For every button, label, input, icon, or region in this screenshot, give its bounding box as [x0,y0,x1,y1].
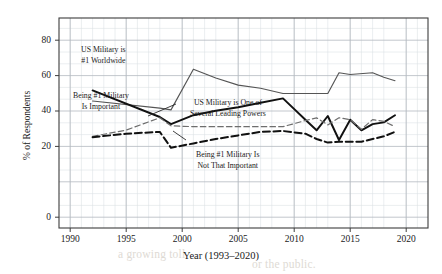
chart-figure: in anticipation on the part of an and th… [0,0,442,274]
annotation-line-1: US Military is [81,45,126,56]
annotation-one-of-several-leading-powers: US Military is One of Several Leading Po… [190,98,266,119]
annotation-line-1: US Military is One of [190,98,266,109]
y-tick-label-40: 40 [33,105,51,115]
annotation-us-military-1-worldwide: US Military is #1 Worldwide [81,45,126,66]
annotation-line-1: Being #1 Military [73,91,129,102]
x-tick-label-2005: 2005 [223,234,253,244]
x-tick-label-2010: 2010 [279,234,309,244]
chart-svg [0,0,442,274]
x-tick-label-2015: 2015 [335,234,365,244]
x-axis-title: Year (1993–2020) [0,250,442,261]
x-tick-label-1990: 1990 [55,234,85,244]
x-tick-label-2020: 2020 [391,234,421,244]
y-tick-label-0: 0 [33,212,51,222]
annotation-line-2: Not That Important [196,161,259,172]
annotation-line-1: Being #1 Military Is [196,150,259,161]
y-axis-title: % of Respondents [22,91,32,160]
annotation-line-2: Is Important [73,102,129,113]
x-tick-label-1995: 1995 [111,234,141,244]
y-tick-label-80: 80 [33,35,51,45]
annotation-being-1-military-important: Being #1 Military Is Important [73,91,129,112]
annotation-line-2: #1 Worldwide [81,56,126,67]
y-tick-label-20: 20 [33,141,51,151]
annotation-being-1-military-not-important: Being #1 Military Is Not That Important [196,150,259,171]
y-tick-label-60: 60 [33,70,51,80]
annotation-line-2: Several Leading Powers [190,109,266,120]
x-tick-label-2000: 2000 [167,234,197,244]
